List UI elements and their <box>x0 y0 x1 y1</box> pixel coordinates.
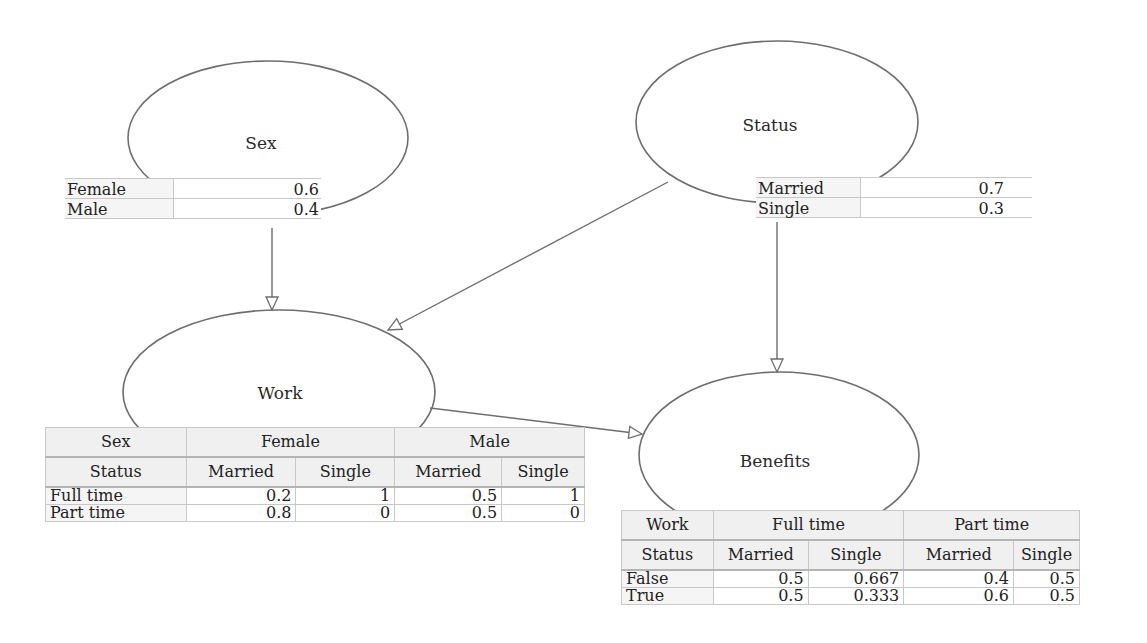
parent2-value: Married <box>186 457 296 487</box>
parent2-value: Married <box>904 540 1014 570</box>
prior-row: Married 0.7 <box>756 178 1032 198</box>
probability-value: 0.5 <box>1014 588 1080 605</box>
state-label: Part time <box>46 505 187 522</box>
probability-value: 0.5 <box>1014 570 1080 588</box>
parent2-value: Single <box>296 457 395 487</box>
parent1-value: Female <box>186 428 395 458</box>
parent1-name: Sex <box>46 428 187 458</box>
node-status-label: Status <box>742 115 797 135</box>
probability-value: 0.5 <box>713 588 808 605</box>
probability-value: 0.5 <box>395 487 502 505</box>
parent2-name: Status <box>622 540 714 570</box>
probability-value: 0.333 <box>808 588 904 605</box>
parent2-value: Single <box>808 540 904 570</box>
parent2-header-row: Status Married Single Married Single <box>46 457 585 487</box>
parent1-header-row: Work Full time Part time <box>622 511 1080 541</box>
probability-value: 0.4 <box>174 199 322 219</box>
parent2-header-row: Status Married Single Married Single <box>622 540 1080 570</box>
parent2-name: Status <box>46 457 187 487</box>
probability-value: 0.3 <box>861 198 1033 218</box>
sex-prior-table: Female 0.6 Male 0.4 <box>65 178 321 219</box>
probability-value: 0.8 <box>186 505 296 522</box>
cpt-row: Full time 0.2 1 0.5 1 <box>46 487 585 505</box>
parent1-value: Part time <box>904 511 1080 541</box>
probability-value: 0.7 <box>861 178 1033 198</box>
state-label: Female <box>65 179 174 199</box>
prior-row: Female 0.6 <box>65 179 321 199</box>
prior-row: Male 0.4 <box>65 199 321 219</box>
node-benefits-label: Benefits <box>740 451 810 471</box>
probability-value: 0.667 <box>808 570 904 588</box>
parent2-value: Married <box>395 457 502 487</box>
probability-value: 0 <box>296 505 395 522</box>
parent2-value: Married <box>713 540 808 570</box>
prior-row: Single 0.3 <box>756 198 1032 218</box>
state-label: Male <box>65 199 174 219</box>
probability-value: 0.4 <box>904 570 1014 588</box>
cpt-row: True 0.5 0.333 0.6 0.5 <box>622 588 1080 605</box>
parent1-name: Work <box>622 511 714 541</box>
parent1-value: Full time <box>713 511 904 541</box>
state-label: Married <box>756 178 861 198</box>
status-prior-table: Married 0.7 Single 0.3 <box>756 177 1032 218</box>
probability-value: 0.6 <box>174 179 322 199</box>
probability-value: 0.5 <box>713 570 808 588</box>
state-label: False <box>622 570 714 588</box>
cpt-row: Part time 0.8 0 0.5 0 <box>46 505 585 522</box>
probability-value: 1 <box>502 487 585 505</box>
edge-status-to-work <box>388 182 668 330</box>
probability-value: 0.6 <box>904 588 1014 605</box>
probability-value: 0.5 <box>395 505 502 522</box>
state-label: True <box>622 588 714 605</box>
benefits-cpt-table: Work Full time Part time Status Married … <box>621 510 1080 605</box>
probability-value: 1 <box>296 487 395 505</box>
parent1-value: Male <box>395 428 585 458</box>
cpt-row: False 0.5 0.667 0.4 0.5 <box>622 570 1080 588</box>
parent1-header-row: Sex Female Male <box>46 428 585 458</box>
state-label: Single <box>756 198 861 218</box>
parent2-value: Single <box>502 457 585 487</box>
work-cpt-table: Sex Female Male Status Married Single Ma… <box>45 427 585 522</box>
parent2-value: Single <box>1014 540 1080 570</box>
node-work-label: Work <box>258 383 303 403</box>
probability-value: 0 <box>502 505 585 522</box>
node-sex-label: Sex <box>245 133 276 153</box>
state-label: Full time <box>46 487 187 505</box>
probability-value: 0.2 <box>186 487 296 505</box>
